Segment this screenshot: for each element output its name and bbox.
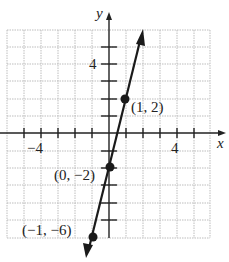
x-axis-label: x <box>216 135 224 151</box>
coordinate-plane: y x 4 −4 4 (1, 2) (0, −2) (−1, −6) <box>0 0 229 262</box>
x-tick-label-4: 4 <box>171 140 179 156</box>
point-0-neg2 <box>106 163 115 172</box>
point-label-neg1-neg6: (−1, −6) <box>22 222 71 239</box>
point-label-0-neg2: (0, −2) <box>54 167 95 184</box>
point-1-2 <box>121 95 130 104</box>
line-arrow-up-icon <box>136 29 145 46</box>
x-tick-label-neg4: −4 <box>27 140 43 156</box>
point-neg1-neg6 <box>89 233 98 242</box>
line-arrow-down-icon <box>83 243 93 258</box>
point-label-1-2: (1, 2) <box>131 99 164 116</box>
y-axis-arrow-icon <box>106 12 112 20</box>
y-axis-label: y <box>94 5 103 21</box>
y-tick-label-4: 4 <box>89 56 97 72</box>
graph-line <box>89 41 140 248</box>
